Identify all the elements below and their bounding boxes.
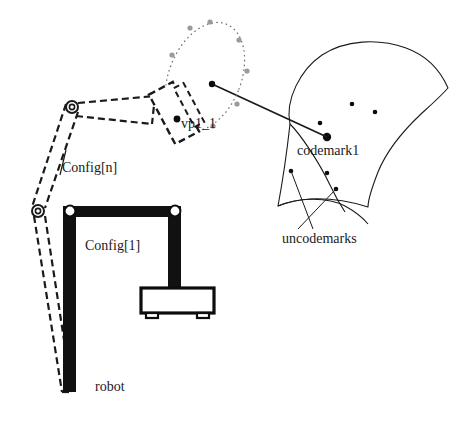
label-viewpoint: vp1_1 (181, 116, 216, 131)
upper-link-bottom (76, 116, 152, 124)
right-column (168, 206, 181, 288)
viewpoint-node-dot (209, 81, 215, 87)
robot-base-foot (146, 313, 158, 318)
shoulder-joint-inner (35, 208, 40, 213)
uncodemark-dot (373, 110, 378, 115)
label-codemark1: codemark1 (297, 143, 359, 158)
curved-surface-outline (278, 42, 448, 207)
curved-surface-group (278, 42, 448, 229)
label-config-1: Config[1] (85, 238, 140, 253)
diagram-text-labels: vp1_1 Config[n] Config[1] robot codemark… (62, 116, 359, 394)
viewpoint-candidate-dot (187, 25, 192, 30)
vp1_1-dot (174, 116, 181, 123)
viewpoint-candidate-dot (234, 101, 239, 106)
vertical-column (63, 206, 76, 392)
dashed-robot-joints (32, 101, 78, 217)
left-pivot (65, 206, 76, 217)
uncodemark-dot (318, 121, 323, 126)
horizontal-beam (63, 206, 181, 217)
right-pivot (170, 206, 181, 217)
robot-viewpoint-diagram: vp1_1 Config[n] Config[1] robot codemark… (0, 0, 459, 430)
vertical-link-left (32, 104, 66, 207)
robot-base-foot (197, 313, 209, 318)
viewpoint-candidate-dot (207, 19, 212, 24)
viewpoint-candidate-dot (169, 52, 174, 57)
elbow-joint-inner (69, 104, 74, 109)
solid-robot-config-1 (63, 206, 214, 392)
label-uncodemarks: uncodemarks (282, 231, 357, 246)
label-config-n: Config[n] (62, 160, 117, 175)
camera-end-effector (149, 82, 204, 144)
robot-base-group (141, 288, 214, 318)
upper-link-top (78, 96, 155, 103)
viewpoint-candidate-dot (244, 68, 249, 73)
uncodemark-dot (325, 171, 330, 176)
diagram-canvas: vp1_1 Config[n] Config[1] robot codemark… (0, 0, 459, 430)
label-robot: robot (95, 379, 125, 394)
viewpoint-candidate-dot (236, 37, 241, 42)
robot-base-plate (141, 288, 214, 313)
uncodemark-dot (350, 102, 355, 107)
